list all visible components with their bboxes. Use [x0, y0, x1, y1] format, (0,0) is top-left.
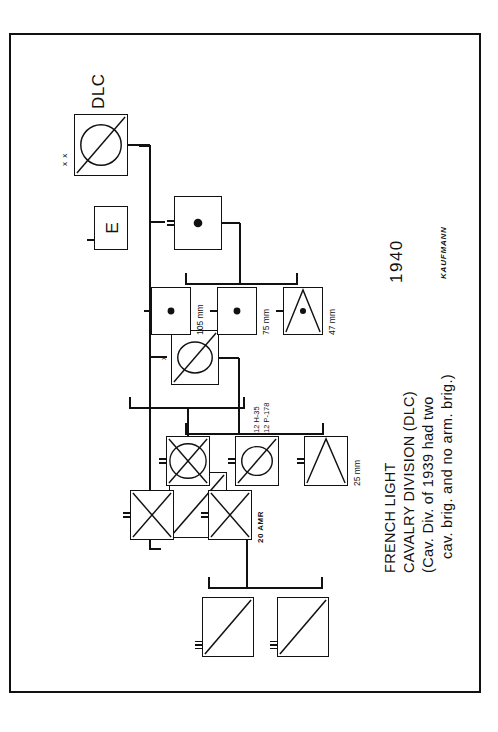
connector-cav-bus-right: [246, 587, 322, 589]
unit-symbol-battery-47mm[interactable]: [283, 287, 323, 335]
chart-credit: KAUFMANN: [439, 226, 448, 279]
diagram-plate-border: x x DLC x: [9, 33, 481, 693]
connector-artillery-bus: [239, 223, 241, 285]
rotated-chart-container: x x DLC x: [9, 33, 481, 693]
caption-line-2: CAVALRY DIVISION (DLC): [400, 374, 419, 573]
caption-line-3: (Cav. Div. of 1939 had two: [419, 374, 438, 573]
connector-mech-brigade-stem: [219, 357, 239, 359]
unit-symbol-amr-squadron-1[interactable]: [130, 490, 174, 540]
unit-symbol-mechanized-cavalry[interactable]: [235, 436, 279, 486]
connector-artillery-cap-top: [185, 273, 187, 285]
connector-cav-bus-cap-top: [208, 577, 210, 589]
label-p178: 12 P-178: [263, 403, 272, 433]
echelon-i-engineer: [85, 236, 94, 244]
unit-symbol-amr-squadron-2[interactable]: [208, 490, 252, 540]
unit-symbol-armored-regiment[interactable]: [166, 436, 210, 486]
echelon-i-battery-75: [208, 307, 217, 315]
chart-canvas: x x DLC x: [9, 33, 481, 693]
echelon-ii-armored-regiment: [157, 455, 166, 467]
connector-amr-cap-bottom: [243, 397, 245, 409]
echelon-iii-cav-regiment-2: [268, 637, 277, 653]
unit-symbol-cavalry-regiment-2[interactable]: [277, 597, 329, 657]
unit-symbol-cavalry-regiment-1[interactable]: [202, 597, 254, 657]
echelon-xx-label: x x: [60, 153, 69, 166]
unit-symbol-engineer[interactable]: E: [94, 206, 128, 250]
label-h35: 12 H-35: [253, 406, 262, 433]
label-75mm: 75 mm: [261, 309, 271, 335]
echelon-ii-amr-1: [121, 509, 130, 521]
caption-line-1: FRENCH LIGHT: [381, 374, 400, 573]
connector-mech-bus-cap-bottom: [322, 423, 324, 435]
unit-symbol-artillery-regiment[interactable]: [174, 196, 222, 250]
unit-symbol-battery-75mm[interactable]: [217, 287, 257, 335]
connector-cav-bus-cap-bottom: [321, 577, 323, 589]
diagram-page: x x DLC x: [0, 0, 498, 732]
unit-symbol-dlc-division[interactable]: [74, 114, 128, 176]
unit-name-dlc: DLC: [89, 73, 109, 109]
label-105mm: 105 mm: [195, 304, 205, 335]
echelon-ii-mech-cavalry: [226, 455, 235, 467]
connector-spine-left-cap: [149, 548, 161, 550]
caption-block: FRENCH LIGHT CAVALRY DIVISION (DLC) (Cav…: [381, 374, 457, 573]
echelon-ii-antitank: [295, 455, 304, 467]
unit-symbol-mechanized-cavalry-brigade[interactable]: [171, 330, 219, 385]
label-47mm: 47 mm: [327, 309, 337, 335]
caption-line-4: cav. brig. and no arm. brig.): [438, 374, 457, 573]
connector-mech-bus-vert: [185, 433, 323, 435]
echelon-x-mech-brigade: x: [159, 355, 168, 360]
echelon-iii-cav-regiment-1: [193, 637, 202, 653]
echelon-ii-amr-2: [199, 509, 208, 521]
echelon-i-battery-105: [142, 307, 151, 315]
connector-amr-link: [187, 408, 189, 436]
connector-amr-bus: [129, 407, 244, 409]
svg-text:E: E: [103, 222, 122, 233]
unit-symbol-antitank-25mm[interactable]: [304, 436, 348, 486]
label-20-amr: 20 AMR: [256, 511, 265, 543]
connector-artillery-cap-bottom: [296, 273, 298, 285]
connector-mech-bus: [238, 358, 240, 435]
echelon-ii-artillery: [165, 217, 174, 229]
connector-artillery-drop: [149, 221, 165, 223]
echelon-i-battery-47: [274, 307, 283, 315]
connector-cav-bus-left: [208, 587, 247, 589]
connector-amr-cap-top: [129, 397, 131, 409]
connector-artillery-bus-vert: [185, 283, 297, 285]
connector-spine-right-cap: [139, 145, 150, 147]
unit-symbol-battery-105mm[interactable]: [151, 287, 191, 335]
connector-artillery-stem: [222, 222, 240, 224]
chart-year: 1940: [387, 239, 407, 283]
label-25mm: 25 mm: [352, 460, 362, 486]
